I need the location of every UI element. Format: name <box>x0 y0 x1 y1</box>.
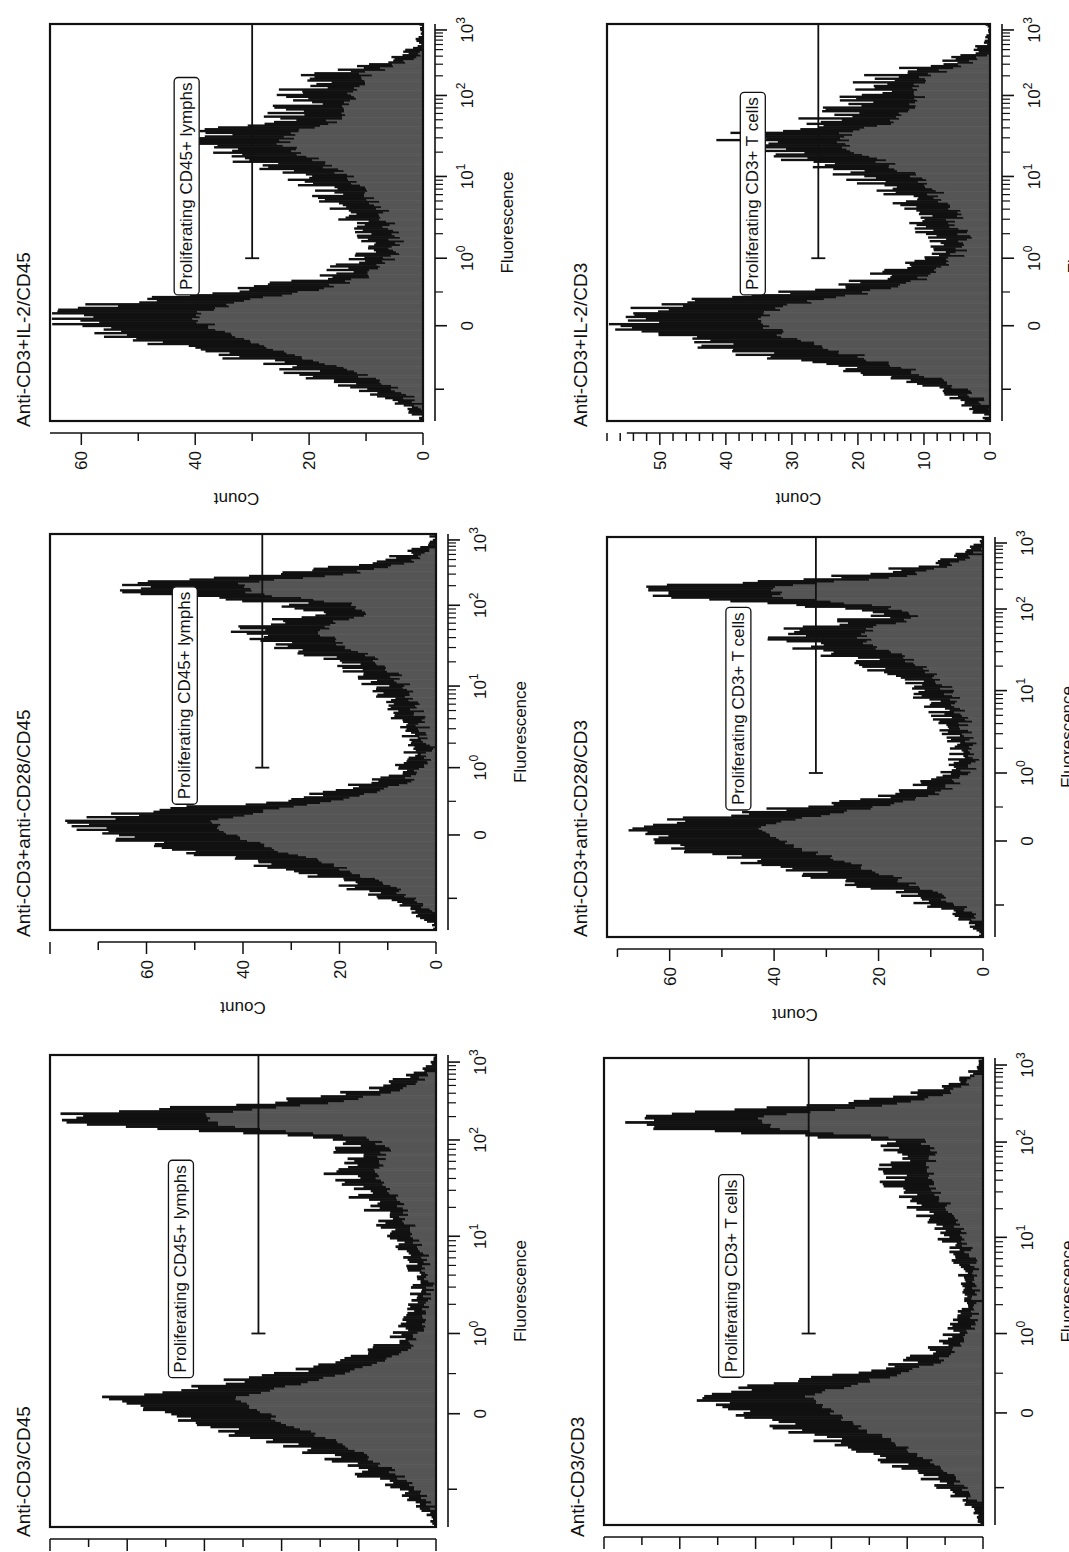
bin-fill <box>366 188 423 190</box>
bin <box>314 568 375 570</box>
bin <box>213 152 301 154</box>
bin <box>333 1138 369 1141</box>
bin <box>421 1282 435 1285</box>
bin <box>283 171 335 173</box>
bin <box>108 830 223 832</box>
bin-fill <box>300 128 423 130</box>
bin-fill <box>344 101 423 103</box>
bin <box>393 712 414 714</box>
bin-fill <box>942 265 990 267</box>
bin-fill <box>783 596 983 598</box>
bin-fill <box>333 620 436 622</box>
bin-fill <box>972 1287 983 1290</box>
bin <box>979 1064 983 1067</box>
bin <box>250 1436 326 1439</box>
bin <box>642 330 784 332</box>
bin-fill <box>872 869 983 871</box>
bin <box>949 764 968 766</box>
bin <box>958 918 971 920</box>
bin-fill <box>956 251 990 253</box>
bin <box>373 690 414 692</box>
bin-fill <box>802 847 983 849</box>
bin-fill <box>982 1505 983 1508</box>
bin <box>743 582 817 584</box>
y-tick-label: 40 <box>186 451 205 470</box>
bin-fill <box>325 363 423 365</box>
bin <box>398 1325 425 1328</box>
bin <box>378 897 416 899</box>
bin-fill <box>236 1396 436 1399</box>
bin <box>285 622 335 624</box>
bin-fill <box>358 650 436 652</box>
bin <box>958 395 969 397</box>
bin-fill <box>950 226 990 228</box>
bin <box>916 206 950 208</box>
bin-fill <box>844 1386 983 1389</box>
bin-fill <box>927 665 983 667</box>
bin <box>927 785 945 787</box>
bin <box>390 1232 412 1235</box>
bin <box>692 337 797 339</box>
bin-fill <box>361 76 423 78</box>
bin <box>418 1295 424 1298</box>
bin <box>913 784 946 786</box>
bin-fill <box>964 735 983 737</box>
bin <box>292 366 343 368</box>
bin-fill <box>968 388 990 390</box>
bin <box>845 880 897 882</box>
bin <box>421 43 423 45</box>
bin-fill <box>978 1274 983 1277</box>
bin <box>393 1217 405 1220</box>
bin-fill <box>400 244 423 246</box>
bin-fill <box>376 207 423 209</box>
bin <box>891 796 917 798</box>
bin-fill <box>776 836 983 838</box>
bin <box>321 1095 364 1098</box>
x-tick-label: 101 <box>467 673 490 699</box>
bin-fill <box>375 877 436 879</box>
bin <box>373 1346 412 1349</box>
bin <box>948 1338 964 1341</box>
bin-fill <box>208 327 423 329</box>
bin-fill <box>368 1458 436 1461</box>
bin <box>195 346 266 348</box>
bin <box>77 829 220 831</box>
bin <box>337 665 385 667</box>
bin-fill <box>390 1147 436 1150</box>
y-axis-label: Count <box>220 998 266 1017</box>
bin <box>399 1340 408 1343</box>
bin-fill <box>274 1387 436 1390</box>
bin-fill <box>399 1353 436 1356</box>
bin <box>334 379 380 381</box>
bin <box>323 791 377 793</box>
bin <box>939 729 968 731</box>
bin <box>390 1215 400 1218</box>
bin <box>818 126 864 128</box>
x-tick-label: 0 <box>458 321 477 330</box>
bin <box>400 904 424 906</box>
bin-fill <box>965 1484 983 1487</box>
bin-fill <box>909 884 983 886</box>
y-tick-label: 50 <box>651 451 670 470</box>
bin <box>871 615 919 617</box>
bin-fill <box>415 395 423 397</box>
bin-fill <box>394 679 436 681</box>
bin <box>391 1230 410 1233</box>
bin-fill <box>421 557 436 559</box>
bin <box>916 209 960 211</box>
bin-fill <box>381 1093 436 1096</box>
bin <box>950 709 965 711</box>
bin <box>921 782 960 784</box>
bin-fill <box>306 856 436 858</box>
gate-label: Proliferating CD3+ T cells <box>722 1180 741 1373</box>
bin-fill <box>392 245 423 247</box>
bin <box>986 23 990 25</box>
bin <box>298 650 358 652</box>
bin <box>324 1458 367 1461</box>
bin <box>978 1520 983 1523</box>
bin <box>930 1217 955 1220</box>
bin-fill <box>412 1346 436 1349</box>
bin-fill <box>400 253 423 255</box>
bin-fill <box>362 78 423 80</box>
bin <box>201 348 273 350</box>
